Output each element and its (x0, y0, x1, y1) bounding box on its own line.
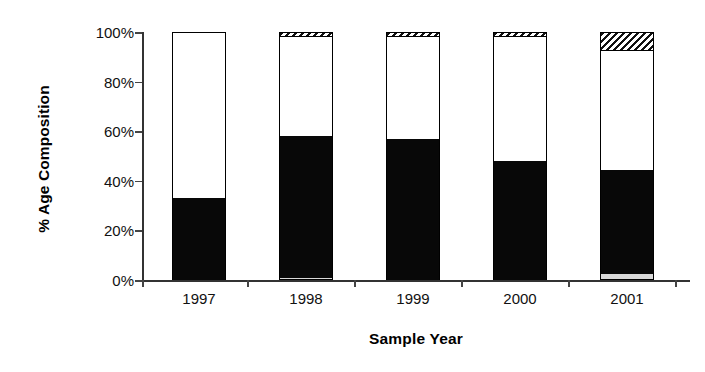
x-tick-label-2001: 2001 (572, 290, 682, 307)
x-tick-label-1998: 1998 (251, 290, 361, 307)
bar-1998-seg-2 (279, 136, 333, 277)
bar-2000 (493, 32, 547, 280)
bar-2001-seg-1 (600, 274, 654, 280)
y-tick-mark-20 (135, 230, 142, 232)
x-tick-label-1999: 1999 (358, 290, 468, 307)
y-tick-label-100: 100% (74, 25, 134, 40)
bar-1999-seg-2 (386, 139, 440, 280)
bar-1999-seg-3 (386, 37, 440, 139)
chart-figure: % Age Composition 0% 20% 40% 60% 80% 100… (0, 0, 705, 372)
bar-2001-seg-2 (600, 170, 654, 274)
plot-area: 1997 1998 1999 2000 2001 (142, 32, 690, 280)
bar-1998-seg-1 (279, 278, 333, 280)
x-tick-mark-4 (568, 280, 570, 287)
x-tick-mark-0 (142, 280, 144, 287)
y-tick-mark-40 (135, 181, 142, 183)
x-tick-mark-2 (354, 280, 356, 287)
bar-2001 (600, 32, 654, 280)
x-axis-line (142, 280, 690, 282)
y-axis-tick-labels: 0% 20% 40% 60% 80% 100% (68, 0, 134, 372)
bar-1997-seg-3 (172, 32, 226, 198)
x-tick-mark-5 (675, 280, 677, 287)
x-tick-mark-3 (461, 280, 463, 287)
y-tick-label-60: 60% (74, 124, 134, 139)
y-axis-line (142, 32, 144, 280)
x-tick-label-1997: 1997 (144, 290, 254, 307)
y-tick-label-40: 40% (74, 173, 134, 188)
y-tick-label-20: 20% (74, 223, 134, 238)
x-axis-title: Sample Year (142, 330, 690, 348)
y-axis-title: % Age Composition (35, 29, 53, 289)
y-tick-mark-100 (135, 32, 142, 34)
x-tick-mark-1 (247, 280, 249, 287)
y-tick-label-0: 0% (74, 273, 134, 288)
x-tick-label-2000: 2000 (465, 290, 575, 307)
y-tick-mark-0 (135, 280, 142, 282)
bar-2001-seg-4 (600, 32, 654, 51)
bar-2000-seg-3 (493, 37, 547, 161)
bar-2001-seg-3 (600, 51, 654, 170)
y-tick-mark-80 (135, 82, 142, 84)
y-tick-label-80: 80% (74, 74, 134, 89)
bar-1999 (386, 32, 440, 280)
bar-1998-seg-3 (279, 37, 333, 136)
bar-1998 (279, 32, 333, 280)
bar-2000-seg-2 (493, 161, 547, 280)
y-tick-mark-60 (135, 131, 142, 133)
bar-1997 (172, 32, 226, 280)
bar-1997-seg-2 (172, 198, 226, 280)
